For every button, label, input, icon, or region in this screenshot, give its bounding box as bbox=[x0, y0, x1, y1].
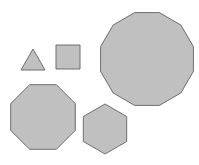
hexagon-shape bbox=[83, 104, 126, 154]
square-shape bbox=[56, 45, 80, 69]
shapes-canvas bbox=[0, 0, 199, 165]
octagon-shape bbox=[11, 85, 76, 150]
dodecagon-shape bbox=[101, 13, 194, 106]
triangle-shape bbox=[21, 49, 45, 70]
